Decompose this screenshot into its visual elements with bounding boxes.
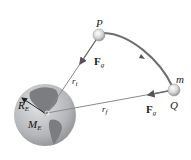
- force-lower-arrow-icon: [148, 91, 168, 95]
- label-m: m: [176, 74, 184, 85]
- label-r-initial: ri: [72, 77, 77, 88]
- earth: [14, 84, 76, 146]
- label-force-lower: Fg: [146, 104, 156, 117]
- label-earth-radius: RE: [18, 100, 29, 113]
- label-force-upper: Fg: [94, 56, 104, 69]
- label-p: P: [96, 18, 103, 29]
- label-r-final: rf: [102, 105, 107, 116]
- trajectory-path: [104, 33, 172, 86]
- trajectory-arrow-icon: [139, 54, 145, 59]
- label-q: Q: [170, 100, 178, 111]
- point-q-ball: [168, 84, 180, 96]
- label-earth-mass: ME: [28, 119, 41, 132]
- gravity-work-diagram: P m Q Fg Fg ri rf RE ME: [0, 0, 191, 160]
- point-p-ball: [93, 29, 105, 41]
